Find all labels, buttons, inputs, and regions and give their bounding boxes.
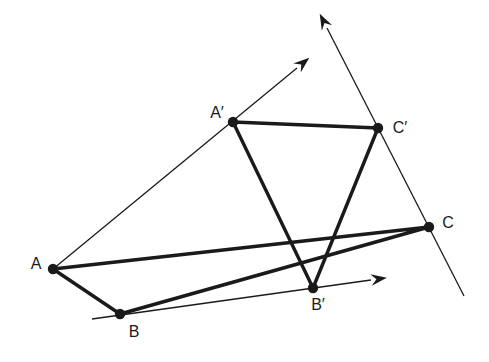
ray-through-A-Aprime [53,68,297,269]
point-B2-dot [308,283,318,293]
point-C2-label: C′ [393,119,408,136]
geometry-diagram: ABCA′B′C′ [0,0,489,362]
point-C-dot [424,222,434,232]
point-C-label: C [442,214,454,231]
figure: ABCA′B′C′ [0,0,489,362]
ray-through-C-Cprime [327,28,464,296]
point-C2-dot [373,123,383,133]
point-B2-label: B′ [311,296,325,313]
point-B-dot [115,309,125,319]
point-A-label: A [31,255,42,272]
point-B-label: B [129,323,140,340]
point-A2-dot [228,117,238,127]
point-A-dot [48,264,58,274]
point-A2-label: A′ [210,104,224,121]
ray-through-B-Bprime [92,280,371,319]
triangle-ABC [53,227,429,314]
